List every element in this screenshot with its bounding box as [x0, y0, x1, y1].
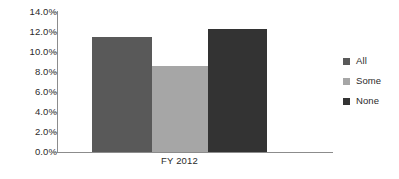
legend-swatch-icon: [342, 57, 351, 66]
legend-item-none[interactable]: None: [342, 91, 399, 111]
bar-all: [92, 37, 152, 152]
bar-none: [208, 29, 267, 152]
bars-layer: [0, 0, 340, 179]
bar-chart-figure: 14.0%12.0%10.0%8.0%6.0%4.0%2.0%0.0% FY 2…: [0, 0, 399, 179]
legend-swatch-icon: [342, 77, 351, 86]
legend-item-all[interactable]: All: [342, 51, 399, 71]
legend-swatch-icon: [342, 97, 351, 106]
x-axis-category-label: FY 2012: [92, 156, 267, 166]
plot-area: 14.0%12.0%10.0%8.0%6.0%4.0%2.0%0.0% FY 2…: [0, 0, 340, 179]
legend-item-label: Some: [356, 76, 381, 86]
bar-some: [152, 66, 208, 152]
chart-legend: AllSomeNone: [342, 51, 399, 111]
legend-item-label: All: [356, 56, 367, 66]
legend-item-some[interactable]: Some: [342, 71, 399, 91]
legend-item-label: None: [356, 96, 379, 106]
